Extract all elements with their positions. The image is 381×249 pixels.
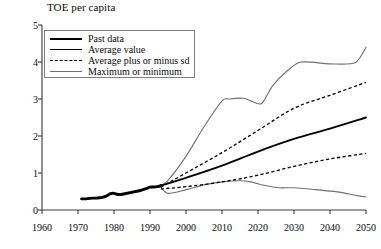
- legend-label-max-min: Maximum or minimum: [88, 67, 182, 77]
- series-average-minus-sd: [161, 153, 366, 189]
- legend-item-max-min: Maximum or minimum: [50, 66, 182, 77]
- series-minimum: [161, 181, 366, 197]
- legend-item-average-sd: Average plus or minus sd: [50, 55, 189, 66]
- series-past-data: [82, 186, 161, 199]
- legend-swatch-average-sd-icon: [50, 56, 82, 65]
- series-average-plus-sd: [161, 82, 366, 187]
- legend-label-average-value: Average value: [88, 45, 145, 55]
- legend-item-past-data: Past data: [50, 33, 124, 44]
- legend-swatch-max-min-icon: [50, 67, 82, 76]
- legend-swatch-past-data-icon: [50, 34, 82, 43]
- chart-legend: Past data Average value Average plus or …: [44, 30, 195, 78]
- legend-item-average-value: Average value: [50, 44, 145, 55]
- legend-label-average-sd: Average plus or minus sd: [88, 56, 189, 66]
- legend-label-past-data: Past data: [88, 34, 124, 44]
- legend-swatch-average-value-icon: [50, 45, 82, 54]
